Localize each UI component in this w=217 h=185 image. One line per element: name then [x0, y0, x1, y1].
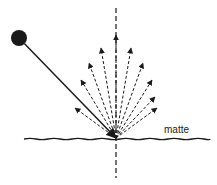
reflected-ray-arrow — [116, 48, 131, 138]
matte-surface-line — [24, 138, 210, 139]
diagram-canvas — [0, 0, 217, 185]
reflected-rays — [75, 35, 157, 138]
light-source-ball — [11, 30, 27, 46]
reflected-ray-arrow — [75, 108, 116, 138]
reflected-ray-arrow — [89, 63, 116, 138]
diffuse-reflection-diagram: matte — [0, 0, 217, 185]
surface-label: matte — [164, 124, 189, 135]
reflected-ray-arrow — [116, 63, 143, 138]
reflected-ray-arrow — [116, 108, 157, 138]
